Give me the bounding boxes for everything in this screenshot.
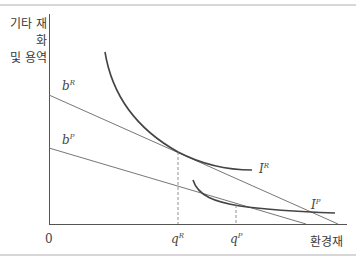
- origin-label: 0: [45, 232, 53, 246]
- indifference-curve-poor-label: IP: [311, 198, 320, 212]
- q-poor-label: qP: [230, 232, 242, 246]
- indifference-curve-rich: [105, 52, 252, 170]
- y-axis-label-line2: 및 용역: [1, 50, 47, 67]
- q-rich-label: qR: [171, 232, 184, 246]
- budget-line-poor-label: bP: [62, 133, 74, 147]
- x-axis-label: 환경재: [310, 232, 343, 249]
- indifference-curve-rich-label: IR: [259, 162, 269, 176]
- y-axis-label-line1: 기타 재화: [1, 16, 47, 50]
- diagram-canvas: [0, 0, 356, 259]
- budget-line-rich-label: bR: [62, 79, 75, 93]
- y-axis-label: 기타 재화 및 용역: [1, 16, 47, 67]
- budget-line-poor: [49, 148, 306, 224]
